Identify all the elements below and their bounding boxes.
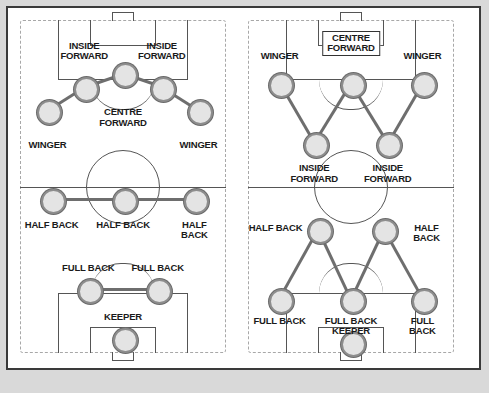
player-inside-forward-left[interactable]	[74, 77, 99, 102]
player-full-back-left[interactable]	[78, 279, 103, 304]
player-full-back-left[interactable]	[269, 289, 294, 314]
label-winger-right: WINGER	[403, 51, 441, 62]
player-half-back-left[interactable]	[41, 189, 66, 214]
label-winger-left: WINGER	[261, 51, 299, 62]
pitch-right-formation: WINGERCENTRE FORWARDWINGERINSIDE FORWARD…	[248, 20, 454, 353]
player-centre-forward[interactable]	[113, 63, 138, 88]
label-winger-left: WINGER	[29, 140, 67, 151]
label-half-back-right: HALF BACK	[179, 220, 210, 241]
player-centre-forward[interactable]	[341, 73, 366, 98]
goal-bottom-marking	[112, 352, 134, 361]
player-half-back-right[interactable]	[184, 189, 209, 214]
centre-circle	[314, 150, 388, 224]
pitch-left-formation: WINGERINSIDE FORWARDCENTRE FORWARDINSIDE…	[20, 20, 226, 353]
player-keeper[interactable]	[113, 328, 138, 353]
label-half-back-left: HALF BACK	[249, 223, 303, 234]
player-full-back-right[interactable]	[147, 279, 172, 304]
label-inside-forward-right: INSIDE FORWARD	[138, 41, 186, 62]
player-half-back-centre[interactable]	[113, 189, 138, 214]
player-winger-left[interactable]	[37, 100, 62, 125]
label-half-back-centre: HALF BACK	[96, 220, 150, 231]
label-half-back-right: HALF BACK	[413, 223, 440, 244]
label-winger-right: WINGER	[180, 140, 218, 151]
player-half-back-left[interactable]	[308, 219, 333, 244]
label-inside-forward-left: INSIDE FORWARD	[291, 163, 339, 184]
label-keeper: KEEPER	[104, 312, 142, 323]
player-full-back-right[interactable]	[412, 289, 437, 314]
diagram-frame: WINGERINSIDE FORWARDCENTRE FORWARDINSIDE…	[6, 6, 481, 370]
player-inside-forward-left[interactable]	[304, 133, 329, 158]
label-inside-forward-left: INSIDE FORWARD	[60, 41, 108, 62]
player-winger-right[interactable]	[412, 73, 437, 98]
label-keeper: KEEPER	[332, 326, 370, 337]
player-half-back-right[interactable]	[373, 219, 398, 244]
label-full-back-right: FULL BACK	[131, 263, 183, 274]
player-inside-forward-right[interactable]	[377, 133, 402, 158]
label-inside-forward-right: INSIDE FORWARD	[364, 163, 412, 184]
label-half-back-left: HALF BACK	[25, 220, 79, 231]
player-winger-right[interactable]	[188, 100, 213, 125]
player-full-back-centre[interactable]	[341, 289, 366, 314]
label-centre-forward: CENTRE FORWARD	[99, 107, 147, 128]
label-full-back-left: FULL BACK	[253, 316, 305, 327]
label-full-back-left: FULL BACK	[62, 263, 114, 274]
label-full-back-right: FULL BACK	[407, 316, 438, 337]
label-centre-forward: CENTRE FORWARD	[322, 31, 380, 56]
player-winger-left[interactable]	[269, 73, 294, 98]
player-inside-forward-right[interactable]	[151, 77, 176, 102]
